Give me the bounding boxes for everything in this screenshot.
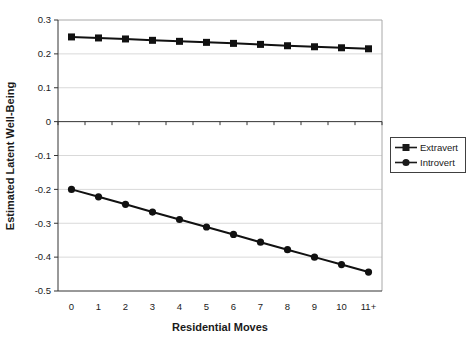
y-tick-label: -0.4 — [35, 251, 51, 262]
legend: Extravert Introvert — [390, 137, 466, 173]
series-extravert-marker — [149, 37, 156, 44]
series-extravert-marker — [365, 45, 372, 52]
series-introvert-marker — [95, 193, 102, 200]
x-tick-label: 8 — [285, 301, 290, 312]
introvert-circle-marker-icon — [394, 157, 418, 168]
series-introvert-marker — [68, 186, 75, 193]
series-extravert-marker — [203, 39, 210, 46]
x-tick-label: 5 — [204, 301, 209, 312]
extravert-square-marker-icon — [394, 142, 418, 153]
legend-item-extravert: Extravert — [394, 140, 465, 155]
legend-label-introvert: Introvert — [420, 157, 455, 168]
series-extravert-marker — [68, 33, 75, 40]
x-tick-label: 2 — [123, 301, 128, 312]
series-introvert-marker — [149, 208, 156, 215]
series-introvert-marker — [230, 231, 237, 238]
legend-item-introvert: Introvert — [394, 155, 465, 170]
x-tick-label: 4 — [177, 301, 182, 312]
x-tick-label: 1 — [96, 301, 101, 312]
x-tick-label: 0 — [69, 301, 74, 312]
series-extravert-marker — [338, 44, 345, 51]
series-introvert-marker — [257, 239, 264, 246]
x-tick-label: 6 — [231, 301, 236, 312]
series-introvert-marker — [203, 223, 210, 230]
y-axis-title: Estimated Latent Well-Being — [2, 16, 18, 296]
x-tick-label: 7 — [258, 301, 263, 312]
y-tick-label: 0 — [46, 116, 51, 127]
y-tick-label: -0.2 — [35, 184, 51, 195]
y-tick-label: 0.2 — [38, 48, 51, 59]
x-tick-label: 3 — [150, 301, 155, 312]
x-tick-label: 9 — [312, 301, 317, 312]
series-extravert-marker — [284, 42, 291, 49]
x-tick-label: 10 — [336, 301, 347, 312]
series-introvert-marker — [311, 254, 318, 261]
legend-label-extravert: Extravert — [420, 142, 458, 153]
y-tick-label: -0.3 — [35, 218, 51, 229]
plot-area: 0.30.20.10-0.1-0.2-0.3-0.4-0.50123456789… — [0, 0, 473, 346]
series-extravert-marker — [95, 34, 102, 41]
series-extravert-marker — [257, 41, 264, 48]
chart-figure: 0.30.20.10-0.1-0.2-0.3-0.4-0.50123456789… — [0, 0, 473, 346]
y-tick-label: -0.1 — [35, 150, 51, 161]
y-tick-label: -0.5 — [35, 285, 51, 296]
y-tick-label: 0.1 — [38, 82, 51, 93]
series-extravert-marker — [122, 35, 129, 42]
series-extravert-marker — [230, 40, 237, 47]
series-introvert-marker — [365, 268, 372, 275]
x-tick-label: 11+ — [361, 301, 377, 312]
series-extravert-marker — [311, 43, 318, 50]
series-introvert-marker — [284, 246, 291, 253]
series-introvert-marker — [338, 261, 345, 268]
series-introvert-marker — [176, 216, 183, 223]
y-tick-label: 0.3 — [38, 14, 51, 25]
series-introvert-marker — [122, 201, 129, 208]
series-extravert-marker — [176, 38, 183, 45]
x-axis-title: Residential Moves — [58, 321, 382, 333]
